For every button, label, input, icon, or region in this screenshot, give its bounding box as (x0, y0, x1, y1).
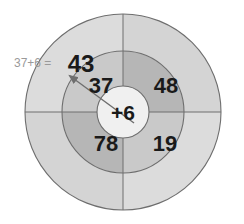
inner-number-bottom-left: 78 (94, 131, 118, 156)
center-value-label: +6 (111, 101, 135, 124)
outer-result-value: 43 (68, 50, 95, 77)
equation-annotation: 37+6 = (14, 56, 51, 70)
inner-number-top-right: 48 (154, 73, 178, 98)
inner-number-bottom-right: 19 (153, 131, 177, 156)
diagram-canvas: 37 48 78 19 +6 43 37+6 = (0, 0, 244, 224)
target-wheel-diagram: 37 48 78 19 +6 43 37+6 = (0, 0, 244, 224)
